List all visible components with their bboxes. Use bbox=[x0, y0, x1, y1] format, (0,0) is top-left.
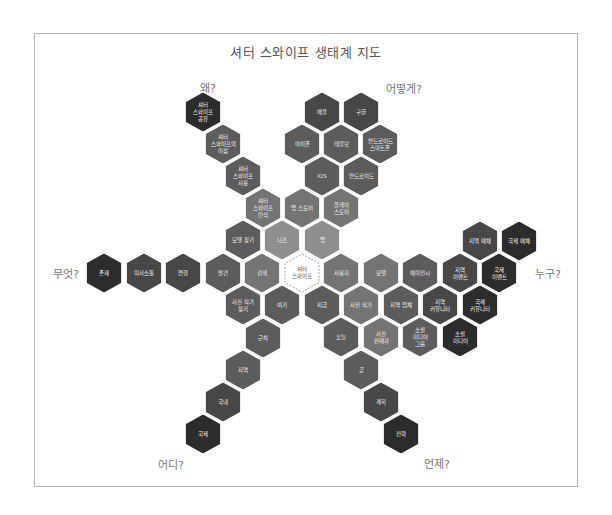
center-hex-label: 셔터 스와이프 bbox=[292, 266, 312, 280]
question-label: 어디? bbox=[158, 456, 184, 472]
question-label: 무엇? bbox=[53, 265, 79, 281]
question-label: 왜? bbox=[200, 79, 216, 95]
question-label: 누구? bbox=[535, 265, 561, 281]
question-label: 언제? bbox=[424, 455, 450, 471]
diagram-title: 셔터 스와이프 생태계 지도 bbox=[0, 42, 612, 61]
center-hex: 셔터 스와이프 bbox=[284, 253, 320, 293]
question-label: 어떻게? bbox=[386, 80, 422, 96]
